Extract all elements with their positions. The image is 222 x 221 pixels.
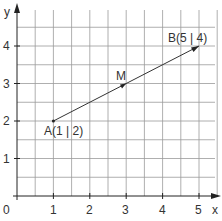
x-tick-label: 2 — [86, 203, 93, 217]
segment-arrow-icon — [191, 46, 199, 52]
x-tick-label: 3 — [122, 203, 129, 217]
y-tick-label: 4 — [3, 39, 10, 53]
y-tick-label: 1 — [3, 152, 10, 166]
point-a — [52, 120, 55, 123]
y-axis-label: y — [4, 5, 10, 19]
point-b-label: B(5 | 4) — [168, 31, 207, 45]
y-axis-arrow-icon — [14, 3, 20, 13]
x-axis-label: x — [212, 203, 218, 217]
x-axis-arrow-icon — [211, 193, 221, 199]
midpoint-marker-icon — [120, 84, 126, 89]
x-tick-label: 1 — [50, 203, 57, 217]
y-tick-label: 2 — [3, 114, 10, 128]
x-tick-label: 5 — [195, 203, 202, 217]
point-m-label: M — [116, 69, 126, 83]
point-a-label: A(1 | 2) — [44, 124, 83, 138]
y-tick-label: 3 — [3, 77, 10, 91]
x-tick-label: 4 — [159, 203, 166, 217]
origin-label: 0 — [3, 203, 10, 217]
coordinate-diagram: 0 1 2 3 4 5 x 1 2 3 4 y A(1 | 2) B(5 | 4… — [0, 0, 222, 221]
